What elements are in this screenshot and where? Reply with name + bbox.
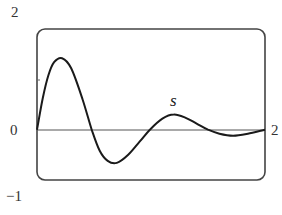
series-s-curve: [37, 58, 265, 163]
y-tick-label-top: 2: [11, 5, 19, 20]
y-tick-label-zero: 0: [10, 123, 18, 138]
chart-frame: [37, 29, 265, 180]
series-label-s: s: [170, 92, 177, 109]
x-tick-label-right: 2: [271, 123, 279, 138]
chart-plot-area: [0, 0, 282, 215]
y-tick-label-bottom: −1: [6, 189, 22, 204]
